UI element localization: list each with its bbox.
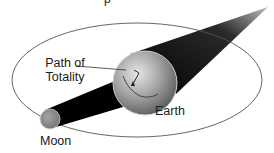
path-of-totality-label: Path of Totality <box>36 56 94 84</box>
moon-label: Moon <box>40 134 71 148</box>
title-fragment: p <box>104 0 111 6</box>
solar-eclipse-diagram: p Path of Totality Earth Moon <box>0 0 274 153</box>
moon-sphere <box>40 109 60 129</box>
path-label-line1: Path of <box>36 56 94 70</box>
earth-label: Earth <box>155 104 185 118</box>
path-label-line2: Totality <box>36 70 94 84</box>
